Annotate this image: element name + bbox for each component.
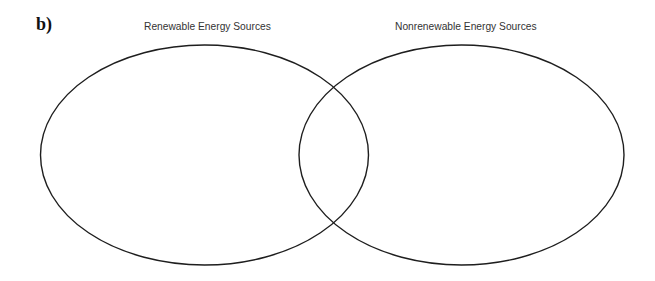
- nonrenewable-set-ellipse[interactable]: [299, 45, 624, 265]
- renewable-set-ellipse[interactable]: [41, 45, 369, 265]
- venn-diagram: [0, 0, 655, 281]
